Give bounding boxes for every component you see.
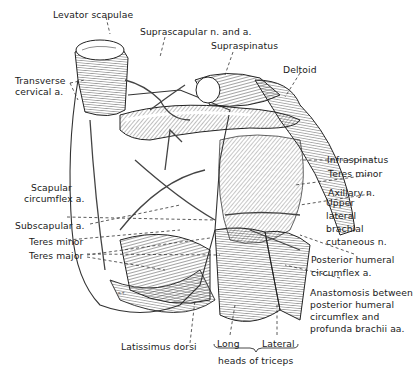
label-upper-lateral-2: lateral xyxy=(326,210,356,221)
label-scapular-circumflex-2: circumflex a. xyxy=(24,193,85,204)
label-upper-lateral-1: Upper xyxy=(326,197,354,208)
levator-scapulae-muscle xyxy=(75,40,128,116)
label-triceps-long-head: Long xyxy=(217,338,240,349)
label-anastomosis-4: profunda brachii aa. xyxy=(310,323,405,334)
scapular-spine xyxy=(120,105,300,140)
label-teres-minor-left: Teres minor xyxy=(29,236,83,247)
label-teres-major: Teres major xyxy=(29,250,83,261)
label-teres-minor-right: Teres minor xyxy=(328,168,382,179)
triceps-muscle xyxy=(215,228,310,322)
label-upper-lateral-4: cutaneous n. xyxy=(326,236,387,247)
label-transverse-cervical-1: Transverse xyxy=(15,75,66,86)
label-posterior-humeral-2: circumflex a. xyxy=(311,267,372,278)
label-latissimus-dorsi: Latissimus dorsi xyxy=(121,341,197,352)
label-upper-lateral-3: brachial xyxy=(326,223,364,234)
label-suprascapular: Suprascapular n. and a. xyxy=(140,26,252,37)
artist-signature: R.T. xyxy=(118,291,125,296)
label-anastomosis-2: posterior humeral xyxy=(310,299,394,310)
label-levator-scapulae: Levator scapulae xyxy=(53,9,133,20)
infraspinatus-muscle xyxy=(219,135,304,243)
label-transverse-cervical-2: cervical a. xyxy=(15,86,63,97)
label-subscapular: Subscapular a. xyxy=(15,220,84,231)
label-infraspinatus: Infraspinatus xyxy=(327,154,388,165)
label-anastomosis-1: Anastomosis between xyxy=(310,287,413,298)
label-posterior-humeral-1: Posterior humeral xyxy=(311,254,394,265)
label-supraspinatus: Supraspinatus xyxy=(211,40,278,51)
label-deltoid: Deltoid xyxy=(283,64,317,75)
label-anastomosis-3: circumflex and xyxy=(310,311,379,322)
label-heads-of-triceps: heads of triceps xyxy=(218,355,293,366)
label-scapular-circumflex-1: Scapular xyxy=(31,182,72,193)
label-triceps-lateral-head: Lateral xyxy=(262,338,295,349)
